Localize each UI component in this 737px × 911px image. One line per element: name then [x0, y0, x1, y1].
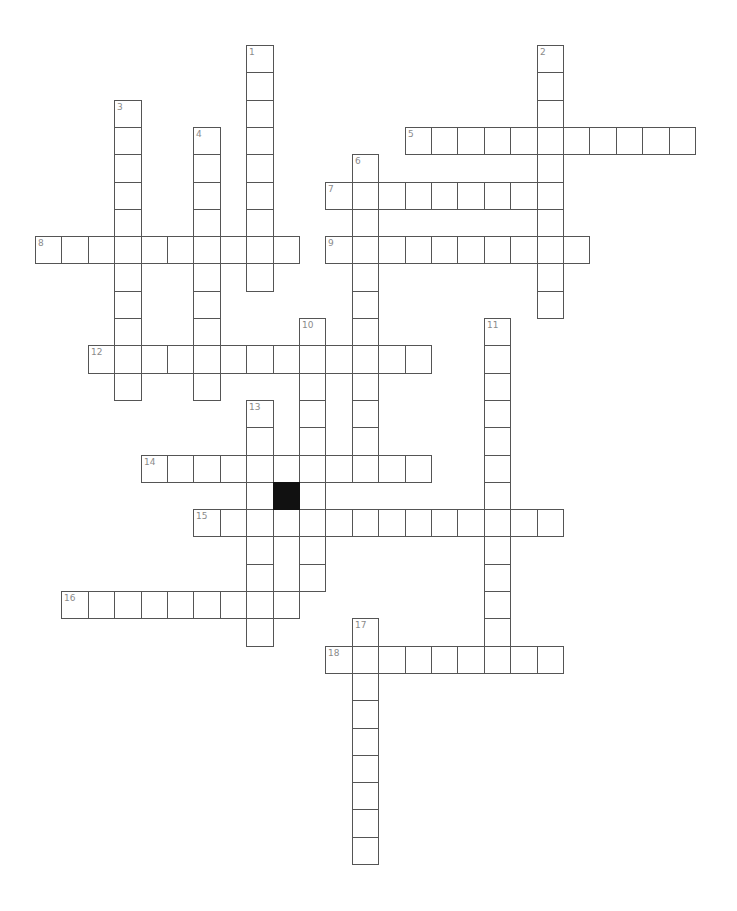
crossword-cell[interactable] [246, 263, 274, 292]
crossword-cell[interactable] [246, 591, 274, 619]
crossword-cell[interactable]: 8 [35, 236, 62, 264]
crossword-cell[interactable] [299, 400, 326, 428]
crossword-cell[interactable] [563, 127, 590, 155]
crossword-cell[interactable] [114, 373, 142, 401]
crossword-cell[interactable] [193, 263, 221, 292]
crossword-cell[interactable] [273, 345, 300, 374]
crossword-cell[interactable] [484, 455, 511, 483]
crossword-cell[interactable] [457, 236, 485, 264]
crossword-cell[interactable] [352, 345, 379, 374]
crossword-cell[interactable]: 15 [193, 509, 221, 537]
crossword-cell[interactable] [114, 127, 142, 155]
crossword-cell[interactable]: 3 [114, 100, 142, 128]
crossword-cell[interactable] [431, 509, 458, 537]
crossword-cell[interactable] [114, 154, 142, 183]
crossword-cell[interactable]: 9 [325, 236, 353, 264]
crossword-cell[interactable] [484, 646, 511, 674]
crossword-cell[interactable] [167, 345, 194, 374]
crossword-cell[interactable] [114, 236, 142, 264]
crossword-cell[interactable]: 13 [246, 400, 274, 428]
crossword-cell[interactable] [193, 345, 221, 374]
crossword-cell[interactable] [352, 509, 379, 537]
crossword-cell[interactable] [141, 345, 168, 374]
crossword-cell[interactable] [537, 236, 564, 264]
crossword-cell[interactable] [114, 318, 142, 346]
crossword-cell[interactable] [61, 236, 89, 264]
crossword-cell[interactable] [273, 236, 300, 264]
crossword-cell[interactable] [457, 646, 485, 674]
crossword-cell[interactable] [378, 182, 406, 210]
crossword-cell[interactable] [193, 236, 221, 264]
crossword-cell[interactable] [484, 182, 511, 210]
crossword-cell[interactable] [325, 509, 353, 537]
crossword-cell[interactable] [537, 509, 564, 537]
crossword-cell[interactable] [88, 236, 115, 264]
crossword-cell[interactable] [405, 646, 432, 674]
crossword-cell[interactable] [167, 455, 194, 483]
crossword-cell[interactable] [352, 427, 379, 456]
crossword-cell[interactable] [405, 236, 432, 264]
crossword-cell[interactable] [193, 154, 221, 183]
crossword-cell[interactable] [537, 209, 564, 237]
crossword-cell[interactable] [246, 127, 274, 155]
crossword-cell[interactable] [352, 646, 379, 674]
crossword-cell[interactable] [431, 127, 458, 155]
crossword-cell[interactable] [484, 373, 511, 401]
crossword-cell[interactable] [510, 127, 538, 155]
crossword-cell[interactable] [220, 345, 247, 374]
crossword-cell[interactable] [484, 427, 511, 456]
crossword-cell[interactable] [484, 618, 511, 647]
crossword-cell[interactable] [246, 209, 274, 237]
crossword-cell[interactable] [352, 182, 379, 210]
crossword-cell[interactable] [299, 427, 326, 456]
crossword-cell[interactable] [114, 591, 142, 619]
crossword-cell[interactable] [246, 536, 274, 565]
crossword-cell[interactable] [378, 345, 406, 374]
crossword-cell[interactable] [246, 236, 274, 264]
crossword-cell[interactable] [510, 646, 538, 674]
crossword-cell[interactable] [220, 509, 247, 537]
crossword-cell[interactable] [405, 509, 432, 537]
crossword-cell[interactable] [220, 591, 247, 619]
crossword-cell[interactable]: 12 [88, 345, 115, 374]
crossword-cell[interactable] [431, 182, 458, 210]
crossword-cell[interactable] [484, 345, 511, 374]
crossword-cell[interactable] [88, 591, 115, 619]
crossword-cell[interactable]: 10 [299, 318, 326, 346]
crossword-cell[interactable] [220, 455, 247, 483]
crossword-cell[interactable] [246, 455, 274, 483]
crossword-cell[interactable] [405, 182, 432, 210]
crossword-cell[interactable] [114, 263, 142, 292]
crossword-cell[interactable] [114, 182, 142, 210]
crossword-cell[interactable] [352, 291, 379, 319]
crossword-cell[interactable] [273, 509, 300, 537]
crossword-cell[interactable] [325, 345, 353, 374]
crossword-cell[interactable] [510, 236, 538, 264]
crossword-cell[interactable] [352, 837, 379, 865]
crossword-cell[interactable] [378, 646, 406, 674]
crossword-cell[interactable] [431, 236, 458, 264]
crossword-cell[interactable] [299, 373, 326, 401]
crossword-cell[interactable] [141, 591, 168, 619]
crossword-cell[interactable] [537, 72, 564, 101]
crossword-cell[interactable] [563, 236, 590, 264]
crossword-cell[interactable] [193, 182, 221, 210]
crossword-cell[interactable] [431, 646, 458, 674]
crossword-cell[interactable] [193, 318, 221, 346]
crossword-cell[interactable] [352, 209, 379, 237]
crossword-cell[interactable] [457, 127, 485, 155]
crossword-cell[interactable]: 17 [352, 618, 379, 647]
crossword-cell[interactable] [378, 455, 406, 483]
crossword-cell[interactable] [299, 564, 326, 592]
crossword-cell[interactable]: 7 [325, 182, 353, 210]
crossword-cell[interactable] [352, 400, 379, 428]
crossword-cell[interactable] [299, 509, 326, 537]
crossword-cell[interactable] [484, 509, 511, 537]
crossword-cell[interactable] [484, 236, 511, 264]
crossword-cell[interactable] [616, 127, 643, 155]
crossword-cell[interactable] [405, 455, 432, 483]
crossword-cell[interactable] [246, 154, 274, 183]
crossword-cell[interactable] [537, 100, 564, 128]
crossword-cell[interactable] [141, 236, 168, 264]
crossword-cell[interactable]: 6 [352, 154, 379, 183]
